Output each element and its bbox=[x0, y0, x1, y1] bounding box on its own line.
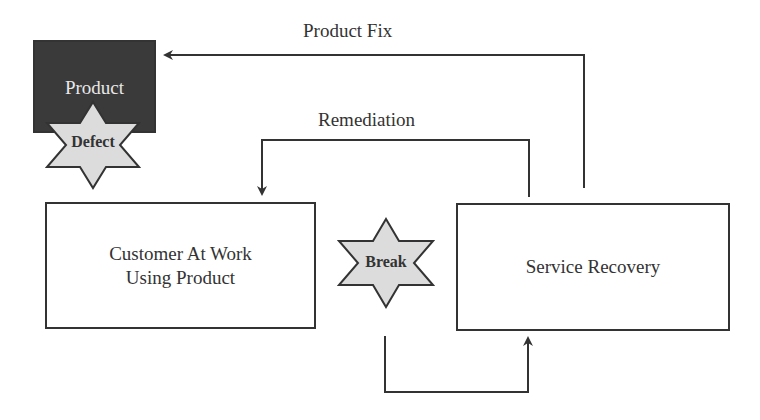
defect-label: Defect bbox=[45, 133, 141, 151]
remediation-label: Remediation bbox=[318, 109, 415, 131]
customer-node: Customer At Work Using Product bbox=[45, 202, 316, 329]
customer-label-line2: Using Product bbox=[109, 266, 252, 290]
service-recovery-node: Service Recovery bbox=[456, 203, 730, 331]
remediation-arrow bbox=[262, 140, 529, 197]
product-label: Product bbox=[65, 76, 124, 100]
break-label: Break bbox=[337, 253, 435, 271]
product-fix-label: Product Fix bbox=[303, 20, 392, 42]
break-badge: Break bbox=[337, 217, 435, 309]
service-recovery-label: Service Recovery bbox=[526, 255, 661, 279]
customer-label-line1: Customer At Work bbox=[109, 242, 252, 266]
break-to-recovery-arrow bbox=[385, 336, 528, 392]
defect-badge: Defect bbox=[45, 100, 141, 190]
